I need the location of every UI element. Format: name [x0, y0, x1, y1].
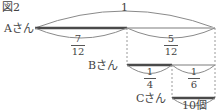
b-first-fraction: 1 4 — [144, 67, 156, 90]
person-a-label: Aさん — [4, 23, 34, 34]
diagram-lines — [0, 0, 223, 111]
denominator: 6 — [191, 80, 197, 90]
a-first-fraction: 7 12 — [71, 34, 85, 57]
denominator: 12 — [165, 47, 178, 57]
whole-label: 1 — [121, 2, 128, 13]
denominator: 12 — [72, 47, 85, 57]
numerator: 1 — [191, 67, 197, 77]
person-c-label: Cさん — [136, 93, 166, 104]
denominator: 4 — [147, 80, 153, 90]
a-second-fraction: 5 12 — [164, 34, 178, 57]
figure-title: 図2 — [2, 2, 20, 13]
c-quantity-label: 10個 — [182, 100, 207, 111]
numerator: 7 — [75, 34, 81, 44]
numerator: 1 — [147, 67, 153, 77]
b-second-fraction: 1 6 — [188, 67, 200, 90]
numerator: 5 — [168, 34, 174, 44]
person-b-label: Bさん — [88, 60, 118, 71]
